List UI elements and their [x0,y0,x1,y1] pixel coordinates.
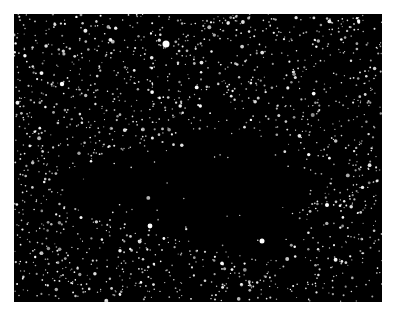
stars-layer [14,14,382,302]
star-field-photo [14,14,382,302]
